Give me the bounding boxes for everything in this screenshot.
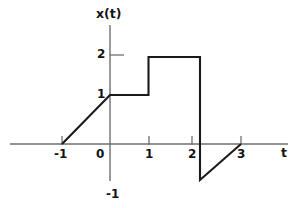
signal-waveform xyxy=(62,57,241,180)
y-tick-label-1: 1 xyxy=(97,88,105,100)
x-tick-label-3: 3 xyxy=(237,148,245,160)
y-tick-label-minus1: -1 xyxy=(106,188,119,200)
y-tick-label-2: 2 xyxy=(97,48,105,60)
signal-plot-figure: x(t) t -1 0 1 2 3 2 1 -1 xyxy=(0,0,299,208)
x-tick-label-1: 1 xyxy=(145,148,153,160)
x-axis-label: t xyxy=(281,147,287,160)
x-tick-label-minus1: -1 xyxy=(54,148,67,160)
y-axis-label: x(t) xyxy=(96,8,121,21)
x-tick-label-2: 2 xyxy=(188,148,196,160)
x-tick-label-0: 0 xyxy=(96,148,104,160)
plot-canvas xyxy=(0,0,299,208)
